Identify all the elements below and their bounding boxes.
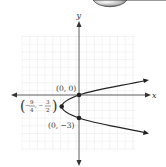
svg-text:2: 2	[46, 107, 50, 113]
svg-text:, −: , −	[35, 102, 43, 108]
parabola-graph: x y (0, 0) (0, −3) ( − 9 4 , − 3 2 )	[0, 0, 166, 167]
y-axis-label: y	[76, 11, 82, 20]
point-0-neg3	[77, 116, 82, 121]
origin-label: (0, 0)	[56, 84, 76, 93]
grid	[22, 35, 135, 150]
decorative-disc-icon	[93, 0, 166, 7]
x-axis-label: x	[152, 91, 157, 100]
arrow-upper-branch-icon	[143, 79, 149, 84]
point-b-label: (0, −3)	[48, 121, 75, 130]
svg-text:9: 9	[30, 99, 34, 105]
svg-text:3: 3	[46, 99, 50, 105]
point-origin	[77, 93, 82, 98]
point-vertex	[59, 104, 64, 109]
arrow-lower-branch-icon	[143, 130, 149, 135]
svg-text:): )	[52, 98, 57, 114]
svg-text:4: 4	[30, 107, 34, 113]
vertex-label: ( − 9 4 , − 3 2 )	[20, 98, 57, 114]
